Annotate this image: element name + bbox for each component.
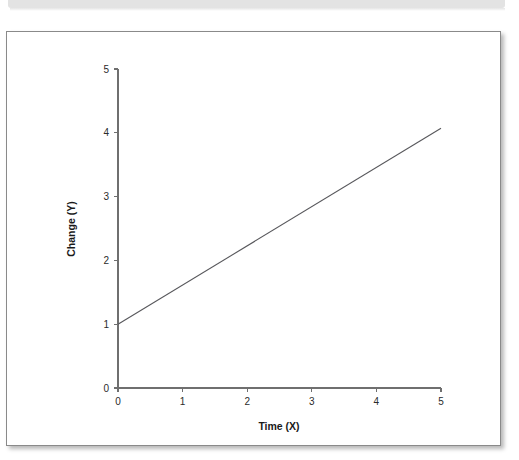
x-axis-tick-label: 2 xyxy=(244,396,250,407)
x-axis-tick-label: 1 xyxy=(180,396,186,407)
x-axis-ticks: 012345 xyxy=(115,388,444,407)
y-axis-title: Change (Y) xyxy=(65,201,77,256)
x-axis-tick-label: 5 xyxy=(438,396,444,407)
x-axis-tick-label: 0 xyxy=(115,396,121,407)
y-axis-tick-label: 1 xyxy=(103,319,109,330)
data-line-series-0 xyxy=(118,128,441,324)
chart-plot-area: 012345 012345 Time (X) Change (Y) xyxy=(7,32,502,447)
x-axis-tick-label: 3 xyxy=(309,396,315,407)
y-axis-tick-label: 0 xyxy=(103,383,109,394)
y-axis-ticks: 012345 xyxy=(103,64,118,394)
line-chart: 012345 012345 Time (X) Change (Y) xyxy=(7,32,502,447)
scanned-page-top-band xyxy=(8,0,505,8)
y-axis-tick-label: 5 xyxy=(103,64,109,75)
y-axis-tick-label: 3 xyxy=(103,191,109,202)
x-axis-tick-label: 4 xyxy=(374,396,380,407)
y-axis-tick-label: 4 xyxy=(103,127,109,138)
y-axis-tick-label: 2 xyxy=(103,255,109,266)
x-axis-title: Time (X) xyxy=(258,420,299,432)
figure-card: 012345 012345 Time (X) Change (Y) xyxy=(6,31,501,446)
scanned-page-top-band-shadow xyxy=(10,8,505,11)
